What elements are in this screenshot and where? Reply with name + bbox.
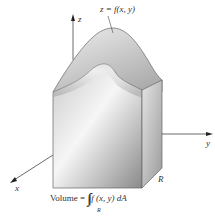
z-axis-label: z: [78, 15, 82, 24]
double-integral-sign: ∫∫: [87, 191, 89, 206]
z-axis: [71, 14, 75, 60]
solid-side-face: [142, 80, 162, 188]
volume-formula: Volume = ∫∫ f (x, y) dA R: [50, 190, 127, 204]
volume-diagram: z = f(x, y) z y x R Volume = ∫∫ f (x, y)…: [0, 0, 215, 219]
x-axis-label: x: [15, 184, 19, 193]
y-axis-label: y: [206, 139, 210, 148]
formula-integrand: f (x, y) dA: [91, 193, 126, 203]
integral-region-subscript: R: [97, 207, 101, 213]
x-axis: [10, 155, 53, 183]
formula-prefix: Volume =: [50, 193, 87, 203]
region-label: R: [158, 175, 164, 184]
diagram-graphic: [0, 0, 215, 219]
surface-label: z = f(x, y): [100, 5, 135, 14]
y-axis: [162, 132, 213, 136]
